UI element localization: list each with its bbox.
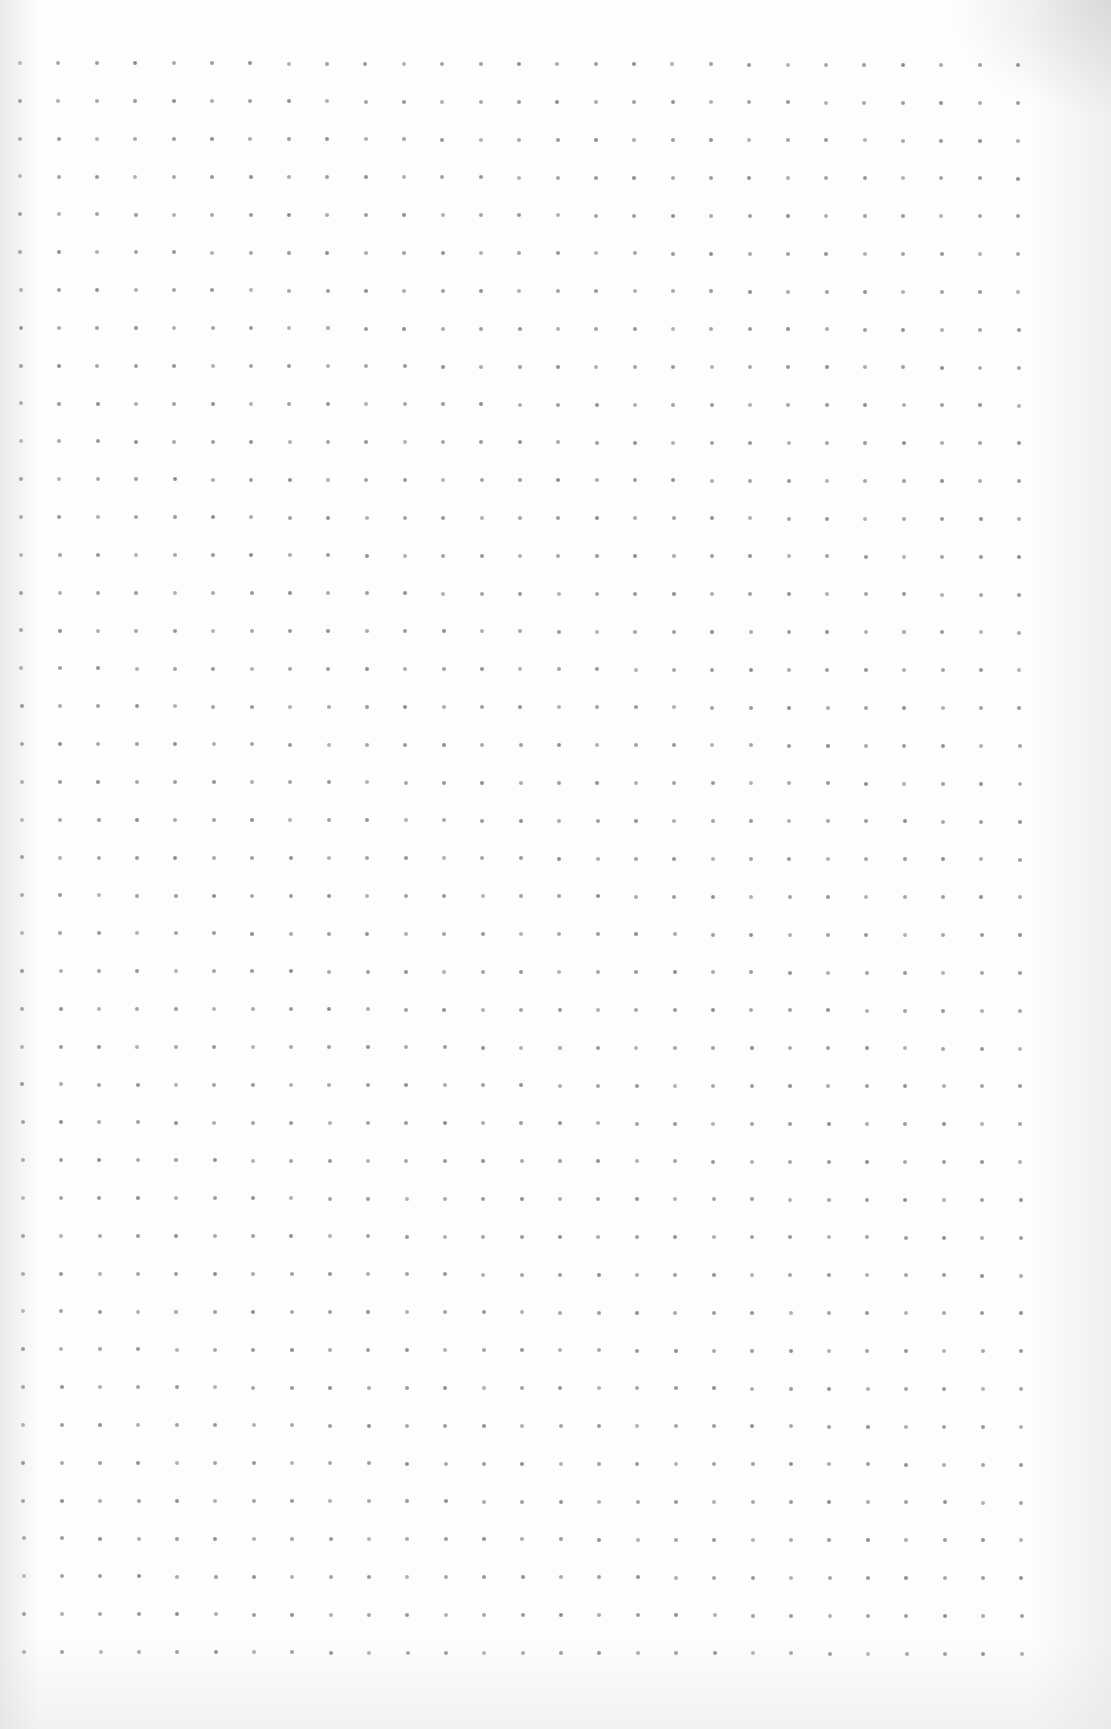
grid-dot — [480, 478, 484, 482]
grid-dot — [60, 1536, 64, 1540]
grid-dot — [325, 251, 329, 255]
grid-dot — [96, 402, 100, 406]
grid-dot — [326, 402, 330, 406]
grid-dot — [978, 252, 982, 256]
grid-dot — [327, 894, 331, 898]
grid-dot — [210, 61, 214, 65]
grid-dot — [904, 1614, 908, 1618]
grid-dot — [289, 894, 293, 898]
grid-dot — [136, 1158, 140, 1162]
grid-dot — [786, 327, 790, 331]
grid-dot — [518, 403, 522, 407]
grid-dot — [709, 289, 713, 293]
grid-dot — [710, 554, 714, 558]
grid-dot — [57, 402, 61, 406]
grid-dot — [865, 971, 869, 975]
grid-dot — [903, 1122, 907, 1126]
grid-dot — [519, 970, 523, 974]
grid-dot — [213, 1423, 217, 1427]
grid-dot — [864, 895, 868, 899]
grid-dot — [787, 744, 791, 748]
grid-dot — [404, 856, 408, 860]
grid-dot — [712, 1424, 716, 1428]
grid-dot — [136, 1347, 140, 1351]
grid-dot — [98, 1423, 102, 1427]
grid-dot — [979, 593, 983, 597]
grid-dot — [250, 705, 254, 709]
grid-dot — [980, 1160, 984, 1164]
grid-dot — [287, 213, 291, 217]
grid-dot — [479, 289, 483, 293]
grid-dot — [904, 1311, 908, 1315]
grid-dot — [750, 1387, 754, 1391]
grid-dot — [865, 1235, 869, 1239]
grid-dot — [863, 214, 867, 218]
grid-dot — [327, 743, 331, 747]
grid-dot — [595, 554, 599, 558]
grid-dot — [1016, 290, 1020, 294]
grid-dot — [787, 517, 791, 521]
grid-dot — [633, 365, 637, 369]
grid-dot — [940, 403, 944, 407]
grid-dot — [287, 62, 291, 66]
grid-dot — [1018, 858, 1022, 862]
grid-dot — [98, 1537, 102, 1541]
grid-dot — [136, 1423, 140, 1427]
grid-dot — [863, 176, 867, 180]
grid-dot — [367, 1651, 371, 1655]
grid-dot — [366, 1197, 370, 1201]
grid-dot — [903, 1198, 907, 1202]
grid-dot — [21, 1272, 25, 1276]
grid-dot — [325, 99, 329, 103]
grid-dot — [479, 213, 483, 217]
grid-dot — [328, 1159, 332, 1163]
grid-dot — [326, 516, 330, 520]
grid-dot — [710, 592, 714, 596]
grid-dot — [902, 706, 906, 710]
grid-dot — [57, 515, 61, 519]
dot-grid — [0, 0, 1111, 1729]
grid-dot — [96, 553, 100, 557]
grid-dot — [367, 1575, 371, 1579]
grid-dot — [21, 1309, 25, 1313]
grid-dot — [712, 1462, 716, 1466]
grid-dot — [636, 1575, 640, 1579]
grid-dot — [981, 1501, 985, 1505]
grid-dot — [441, 592, 445, 596]
grid-dot — [441, 440, 445, 444]
grid-dot — [748, 214, 752, 218]
grid-dot — [711, 970, 715, 974]
grid-dot — [825, 554, 829, 558]
grid-dot — [788, 1046, 792, 1050]
grid-dot — [326, 440, 330, 444]
grid-dot — [671, 138, 675, 142]
grid-dot — [367, 1424, 371, 1428]
grid-dot — [213, 1348, 217, 1352]
grid-dot — [712, 1349, 716, 1353]
grid-dot — [444, 1575, 448, 1579]
grid-dot — [863, 252, 867, 256]
grid-dot — [481, 1159, 485, 1163]
grid-dot — [824, 176, 828, 180]
grid-dot — [751, 1576, 755, 1580]
grid-dot — [482, 1613, 486, 1617]
grid-dot — [825, 592, 829, 596]
grid-dot — [443, 1197, 447, 1201]
grid-dot — [709, 176, 713, 180]
grid-dot — [711, 1008, 715, 1012]
grid-dot — [520, 1500, 524, 1504]
grid-dot — [864, 630, 868, 634]
grid-dot — [904, 1538, 908, 1542]
grid-dot — [519, 1008, 523, 1012]
grid-dot — [365, 932, 369, 936]
grid-dot — [214, 1575, 218, 1579]
grid-dot — [329, 1613, 333, 1617]
grid-dot — [826, 971, 830, 975]
grid-dot — [748, 441, 752, 445]
grid-dot — [288, 478, 292, 482]
grid-dot — [632, 138, 636, 142]
grid-dot — [711, 781, 715, 785]
grid-dot — [864, 706, 868, 710]
grid-dot — [97, 1083, 101, 1087]
grid-dot — [751, 1538, 755, 1542]
